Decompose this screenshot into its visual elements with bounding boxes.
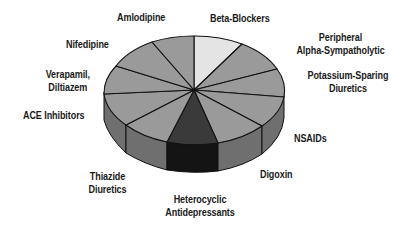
label-peripheral-line2: Alpha-Sympatholytic [276, 44, 404, 57]
label-verapamil: Verapamil, Diltiazem [42, 68, 94, 94]
label-verapamil-line2: Diltiazem [42, 81, 94, 94]
label-potassium-line2: Diuretics [292, 82, 404, 95]
label-amlodipine: Amlodipine [117, 11, 165, 24]
side-heterocyclic [167, 142, 218, 172]
label-thiazide-line2: Diuretics [86, 183, 129, 196]
label-heterocyclic-line2: Antidepressants [157, 206, 243, 219]
label-nifedipine: Nifedipine [66, 38, 109, 51]
label-ace-inhibitors: ACE Inhibitors [23, 109, 85, 122]
label-peripheral-line1: Peripheral [276, 31, 404, 44]
label-potassium-line1: Potassium-Sparing [292, 69, 404, 82]
label-thiazide: Thiazide Diuretics [86, 170, 129, 196]
label-nsaids: NSAIDs [294, 132, 327, 145]
label-heterocyclic: Heterocyclic Antidepressants [157, 193, 243, 219]
label-digoxin: Digoxin [260, 168, 293, 181]
label-verapamil-line1: Verapamil, [42, 68, 94, 81]
label-thiazide-line1: Thiazide [86, 170, 129, 183]
label-heterocyclic-line1: Heterocyclic [157, 193, 243, 206]
label-potassium: Potassium-Sparing Diuretics [292, 69, 404, 95]
label-beta-blockers: Beta-Blockers [210, 12, 270, 25]
label-peripheral: Peripheral Alpha-Sympatholytic [276, 31, 404, 57]
pie-top [104, 36, 285, 145]
